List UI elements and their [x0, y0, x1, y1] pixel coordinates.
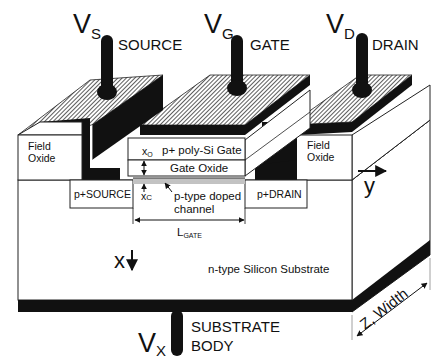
drain-voltage-label: VD [326, 9, 355, 42]
gate-oxide-label: Gate Oxide [170, 162, 228, 174]
substrate-type-label: n-type Silicon Substrate [208, 263, 329, 275]
substrate-backplate [18, 300, 352, 312]
body-label: BODY [191, 337, 234, 354]
drain-label: DRAIN [372, 36, 419, 53]
p-drain-label: p+DRAIN [257, 188, 302, 200]
p-channel [133, 178, 245, 184]
source-label: SOURCE [118, 36, 182, 53]
gate-voltage-label: VG [204, 9, 234, 42]
body-voltage-label: VX [138, 328, 166, 359]
source-voltage-label: VS [73, 9, 101, 42]
field-oxide-right-label-2: Oxide [307, 151, 335, 163]
channel-label-1: p-type doped [174, 190, 241, 202]
mosfet-diagram: VS SOURCE VG GATE VD DRAIN VX SUBSTRATE … [0, 0, 440, 359]
gate-label: GATE [250, 36, 290, 53]
drain-post [352, 33, 372, 98]
p-source-label: p+SOURCE [74, 188, 131, 200]
body-post [171, 310, 183, 356]
y-axis-label: y [364, 173, 375, 198]
poly-gate-label: p+ poly-Si Gate [162, 144, 242, 156]
field-oxide-left-label-2: Oxide [28, 152, 56, 164]
x-axis-label: x [114, 248, 125, 273]
substrate-label: SUBSTRATE [191, 318, 280, 335]
field-oxide-left-label-1: Field [28, 140, 51, 152]
channel-label-2: channel [174, 203, 214, 215]
field-oxide-right-label-1: Field [307, 139, 330, 151]
gate-post [227, 35, 247, 96]
source-post [97, 35, 117, 100]
